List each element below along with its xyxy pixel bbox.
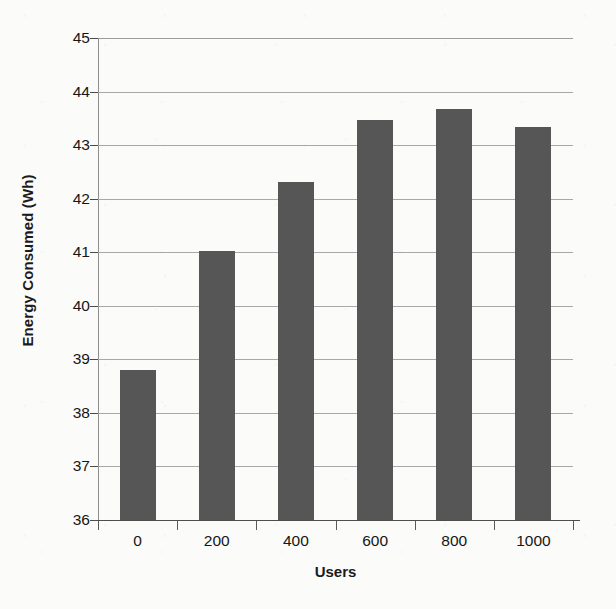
y-tick-label: 41 [46, 243, 90, 261]
x-tick-label: 1000 [493, 532, 573, 550]
x-tick-label: 400 [256, 532, 336, 550]
y-tick-mark [90, 145, 98, 146]
bar [436, 109, 472, 520]
y-axis-tick-labels: 45444342414039383736 [46, 0, 90, 609]
x-tick-mark [98, 521, 99, 530]
x-tick-mark [177, 521, 178, 530]
y-tick-label: 43 [46, 136, 90, 154]
bars [98, 38, 573, 520]
x-tick-mark [494, 521, 495, 530]
y-tick-label: 42 [46, 190, 90, 208]
y-tick-label: 38 [46, 404, 90, 422]
x-tick-label: 0 [98, 532, 178, 550]
x-tick-mark [336, 521, 337, 530]
y-tick-label: 36 [46, 511, 90, 529]
x-tick-label: 600 [335, 532, 415, 550]
y-tick-mark [90, 306, 98, 307]
bar [199, 251, 235, 520]
y-tick-label: 45 [46, 29, 90, 47]
bar [357, 120, 393, 520]
y-tick-label: 40 [46, 297, 90, 315]
bar-chart: Energy Consumed (Wh) 4544434241403938373… [0, 0, 616, 609]
y-tick-mark [90, 252, 98, 253]
bar [120, 370, 156, 520]
y-tick-mark [90, 199, 98, 200]
y-tick-mark [90, 466, 98, 467]
y-tick-mark [90, 92, 98, 93]
y-tick-mark [90, 359, 98, 360]
y-tick-label: 37 [46, 457, 90, 475]
x-tick-label: 200 [177, 532, 257, 550]
y-tick-label: 39 [46, 350, 90, 368]
x-axis-title: Users [98, 563, 573, 580]
bar [515, 127, 551, 520]
x-tick-label: 800 [414, 532, 494, 550]
x-tick-mark [256, 521, 257, 530]
x-tick-mark [573, 521, 574, 530]
y-axis-title-text: Energy Consumed (Wh) [19, 174, 36, 346]
y-tick-mark [90, 413, 98, 414]
y-tick-label: 44 [46, 83, 90, 101]
y-axis-title: Energy Consumed (Wh) [6, 0, 48, 520]
bar [278, 182, 314, 520]
plot-area [98, 38, 573, 520]
y-tick-mark [90, 38, 98, 39]
x-tick-mark [415, 521, 416, 530]
